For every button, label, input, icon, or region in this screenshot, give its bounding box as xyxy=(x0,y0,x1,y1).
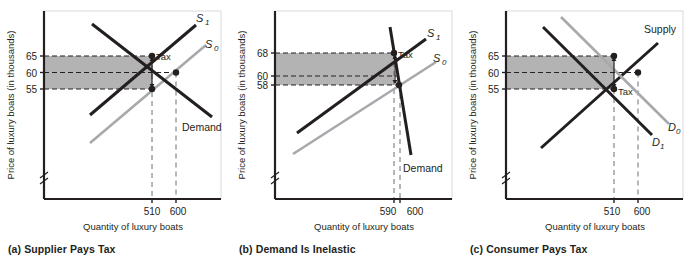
curve-sublabel-s1-b: 1 xyxy=(436,33,440,42)
curve-label-s0-a: S xyxy=(205,38,213,50)
x-axis-title-b: Quantity of luxury boats xyxy=(314,221,414,232)
tax-incidence-figure: 65 60 55 510 600 Quantity of luxury boat… xyxy=(0,0,693,266)
panel-caption-letter-c: (c) xyxy=(470,243,483,255)
y-axis-title-c: Price of luxury boats (in thousands) xyxy=(467,31,478,180)
tax-revenue-band-b xyxy=(275,53,394,85)
curve-sublabel-s1-a: 1 xyxy=(205,18,209,27)
equilibrium-point-60-600-a xyxy=(173,69,179,75)
curve-label-d0-c: D xyxy=(668,121,676,133)
equilibrium-point-60-600-c xyxy=(635,69,641,75)
chart-a-svg: 65 60 55 510 600 Quantity of luxury boat… xyxy=(0,0,231,240)
tax-label-c: Tax xyxy=(618,86,633,97)
y-tick-label-c-1: 60 xyxy=(488,68,500,79)
panel-caption-c: (c)Consumer Pays Tax xyxy=(470,243,587,255)
tax-label-b: Tax xyxy=(398,49,413,60)
x-tick-label-a-0: 510 xyxy=(144,206,161,217)
tax-label-a: Tax xyxy=(156,51,171,62)
panel-caption-b: (b)Demand Is Inelastic xyxy=(239,243,356,255)
panel-caption-letter-b: (b) xyxy=(239,243,253,255)
x-tick-label-c-0: 510 xyxy=(604,206,621,217)
chart-b-svg: 68 60 58 590 600 Quantity of luxury boat… xyxy=(231,0,462,240)
y-tick-label-a-1: 60 xyxy=(26,68,38,79)
curve-sublabel-d0-c: 0 xyxy=(676,127,681,136)
x-tick-label-b-0: 590 xyxy=(380,206,397,217)
plot-area-c xyxy=(506,11,683,199)
panel-caption-text-c: Consumer Pays Tax xyxy=(486,243,587,255)
y-axis-title-b: Price of luxury boats (in thousands) xyxy=(236,31,247,180)
chart-panel-c: 65 60 55 510 600 Quantity of luxury boat… xyxy=(462,0,693,266)
curve-label-supply-c: Supply xyxy=(644,23,677,35)
curve-label-s0-b: S xyxy=(433,52,441,64)
y-tick-label-b-2: 58 xyxy=(257,80,269,91)
equilibrium-point-68-590-b xyxy=(391,50,397,56)
y-tick-label-a-0: 65 xyxy=(26,51,38,62)
curve-label-d1-c: D xyxy=(652,136,660,148)
panel-caption-a: (a)Supplier Pays Tax xyxy=(8,243,116,255)
curve-label-demand-a: Demand xyxy=(182,121,222,133)
chart-panel-b: 68 60 58 590 600 Quantity of luxury boat… xyxy=(231,0,462,266)
x-tick-label-c-1: 600 xyxy=(634,206,651,217)
x-axis-title-c: Quantity of luxury boats xyxy=(545,221,645,232)
y-tick-label-c-0: 65 xyxy=(488,51,500,62)
curve-sublabel-d1-c: 1 xyxy=(660,142,664,151)
equilibrium-point-58-600-b xyxy=(396,82,402,88)
curve-sublabel-s0-a: 0 xyxy=(214,44,219,53)
y-tick-label-b-0: 68 xyxy=(257,48,269,59)
x-tick-label-a-1: 600 xyxy=(170,206,187,217)
panel-caption-text-b: Demand Is Inelastic xyxy=(256,243,356,255)
curve-label-s1-a: S xyxy=(196,12,204,24)
chart-panel-a: 65 60 55 510 600 Quantity of luxury boat… xyxy=(0,0,231,266)
panel-caption-text-a: Supplier Pays Tax xyxy=(24,243,115,255)
y-tick-label-c-2: 55 xyxy=(488,84,500,95)
x-axis-title-a: Quantity of luxury boats xyxy=(83,221,183,232)
panel-caption-letter-a: (a) xyxy=(8,243,21,255)
chart-c-svg: 65 60 55 510 600 Quantity of luxury boat… xyxy=(462,0,693,240)
curve-label-demand-b: Demand xyxy=(403,162,443,174)
y-axis-title-a: Price of luxury boats (in thousands) xyxy=(5,31,16,180)
curve-label-s1-b: S xyxy=(427,27,435,39)
curve-sublabel-s0-b: 0 xyxy=(442,58,447,67)
x-tick-label-b-1: 600 xyxy=(407,206,424,217)
y-tick-label-a-2: 55 xyxy=(26,84,38,95)
